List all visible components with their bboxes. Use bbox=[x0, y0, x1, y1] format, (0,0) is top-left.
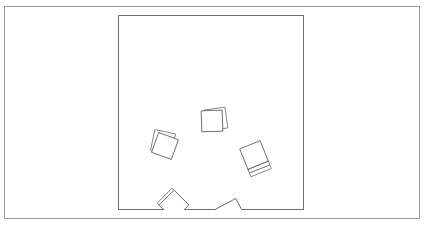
card-bottom-center[interactable] bbox=[215, 198, 250, 227]
scene-root bbox=[0, 0, 425, 227]
card-front-face[interactable] bbox=[215, 198, 246, 227]
scene-canvas bbox=[0, 0, 425, 227]
card-stack-slice bbox=[228, 222, 250, 227]
card-bottom-left[interactable] bbox=[157, 188, 189, 220]
card-front-face[interactable] bbox=[159, 190, 189, 220]
card-stack-slice bbox=[226, 219, 248, 227]
card-front-face[interactable] bbox=[201, 110, 223, 132]
card-left[interactable] bbox=[151, 130, 179, 160]
card-top-center[interactable] bbox=[201, 107, 228, 132]
card-right-stack[interactable] bbox=[240, 141, 272, 177]
